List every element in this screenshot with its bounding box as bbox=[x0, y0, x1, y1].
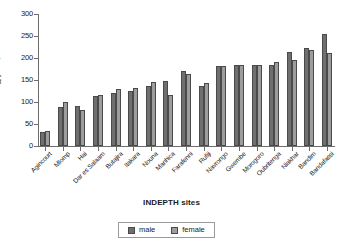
bar-group bbox=[234, 14, 244, 146]
x-tick-label: Butajira bbox=[104, 150, 124, 170]
legend-item-female[interactable]: female bbox=[171, 226, 205, 234]
y-tick-label: 250 bbox=[21, 32, 33, 40]
bar-group bbox=[146, 14, 156, 146]
bar-group bbox=[111, 14, 121, 146]
bar-groups bbox=[38, 14, 334, 146]
bar-female[interactable] bbox=[204, 83, 209, 146]
bar-group bbox=[93, 14, 103, 146]
y-tick-label: 300 bbox=[21, 10, 33, 18]
y-tick-label: 100 bbox=[21, 98, 33, 106]
legend-swatch-male-icon bbox=[128, 227, 135, 234]
bar-female[interactable] bbox=[239, 65, 244, 146]
y-tick-label: 150 bbox=[21, 76, 33, 84]
legend: male female bbox=[118, 222, 215, 238]
bar-group bbox=[128, 14, 138, 146]
bar-group bbox=[287, 14, 297, 146]
bar-female[interactable] bbox=[221, 66, 226, 146]
y-axis-title-suffix: per 1,000 bbox=[0, 45, 1, 79]
bar-group bbox=[216, 14, 226, 146]
bar-female[interactable] bbox=[80, 110, 85, 146]
bar-female[interactable] bbox=[133, 88, 138, 146]
bar-female[interactable] bbox=[186, 74, 191, 146]
y-axis-title-base: q bbox=[0, 82, 1, 86]
bar-female[interactable] bbox=[98, 95, 103, 146]
x-tick-label: Hai bbox=[77, 150, 89, 162]
x-tick-label: Agincourt bbox=[29, 150, 53, 174]
bar-group bbox=[199, 14, 209, 146]
bar-female[interactable] bbox=[45, 131, 50, 146]
bar-group bbox=[40, 14, 50, 146]
y-tick-label: 0 bbox=[29, 142, 33, 150]
bar-group bbox=[252, 14, 262, 146]
bar-group bbox=[322, 14, 332, 146]
bar-female[interactable] bbox=[116, 89, 121, 146]
bar-female[interactable] bbox=[309, 50, 314, 146]
bar-female[interactable] bbox=[151, 82, 156, 146]
bar-group bbox=[269, 14, 279, 146]
y-tick-label: 50 bbox=[25, 120, 33, 128]
x-tick-label: Rufiji bbox=[197, 150, 212, 165]
bar-chart: 5q0 per 1,000 050100150200250300 Agincou… bbox=[0, 0, 343, 252]
bar-female[interactable] bbox=[327, 53, 332, 146]
bar-group bbox=[58, 14, 68, 146]
y-tick-label: 200 bbox=[21, 54, 33, 62]
bar-female[interactable] bbox=[274, 62, 279, 146]
plot-area bbox=[38, 14, 334, 146]
legend-item-male[interactable]: male bbox=[128, 226, 155, 234]
x-tick-label: Mlomp bbox=[52, 150, 70, 168]
bar-female[interactable] bbox=[63, 102, 68, 146]
y-axis-title-sub: 0 bbox=[0, 79, 2, 82]
x-axis-title: INDEPTH sites bbox=[0, 198, 343, 207]
legend-label-male: male bbox=[139, 226, 155, 234]
legend-swatch-female-icon bbox=[171, 227, 178, 234]
y-axis-title: 5q0 per 1,000 bbox=[0, 45, 2, 90]
legend-label-female: female bbox=[182, 226, 205, 234]
bar-group bbox=[181, 14, 191, 146]
x-axis-labels: AgincourtMlompHaiDar es SalaamButajiraIt… bbox=[38, 150, 334, 196]
x-tick-label: Niakhar bbox=[279, 150, 299, 170]
bar-female[interactable] bbox=[257, 65, 262, 146]
y-axis-title-prefix: 5 bbox=[0, 86, 1, 90]
bar-female[interactable] bbox=[292, 60, 297, 146]
bar-group bbox=[304, 14, 314, 146]
bar-group bbox=[75, 14, 85, 146]
bar-female[interactable] bbox=[168, 95, 173, 146]
bar-group bbox=[163, 14, 173, 146]
x-tick-label: Itakara bbox=[123, 150, 141, 168]
